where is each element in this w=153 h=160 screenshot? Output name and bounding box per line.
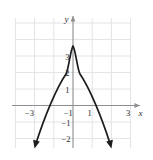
y-axis bbox=[71, 16, 76, 148]
y-axis-label: y bbox=[64, 14, 69, 24]
y-tick-label-1: 1 bbox=[65, 85, 69, 95]
y-axis-arrowhead bbox=[71, 16, 76, 22]
x-tick-label-3: 3 bbox=[126, 108, 130, 118]
y-tick-label-3: 3 bbox=[65, 52, 69, 62]
y-tick-label--2: −2 bbox=[61, 134, 70, 144]
x-tick-label--1: −1 bbox=[64, 108, 73, 118]
y-tick-label--1: −1 bbox=[61, 118, 70, 128]
graph-figure: −3 −1 1 3 3 2 1 −1 −2 y x bbox=[0, 0, 153, 160]
x-axis-label: x bbox=[138, 108, 143, 118]
x-tick-labels: −3 −1 1 3 bbox=[25, 108, 130, 118]
y-tick-label-2: 2 bbox=[65, 68, 69, 78]
parabola-graph: −3 −1 1 3 3 2 1 −1 −2 y x bbox=[0, 0, 153, 160]
x-tick-label-1: 1 bbox=[87, 108, 91, 118]
x-tick-label--3: −3 bbox=[25, 108, 34, 118]
